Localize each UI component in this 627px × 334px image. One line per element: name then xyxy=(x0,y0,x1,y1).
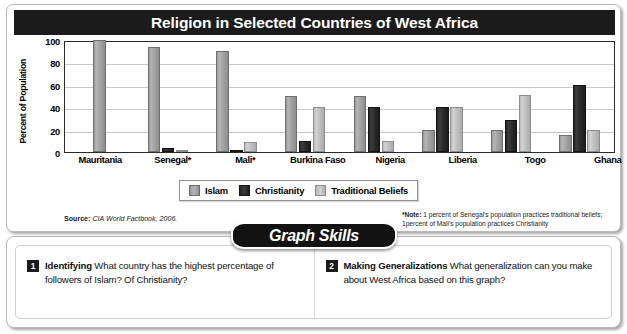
plot-container: Percent of Population 020406080100 xyxy=(22,41,617,165)
legend-label: Islam xyxy=(205,185,228,196)
page-title: Religion in Selected Countries of West A… xyxy=(151,14,478,32)
source-text: CIA World Factbook, 2006. xyxy=(92,215,177,223)
bar-group xyxy=(545,42,614,152)
questions-inner: 1Identifying What country has the highes… xyxy=(15,245,612,319)
bar xyxy=(450,107,463,152)
graph-skills-banner: Graph Skills xyxy=(231,222,397,249)
source-label: Source: xyxy=(64,215,90,223)
chart-legend: IslamChristianityTraditional Beliefs xyxy=(179,180,418,201)
question-number-badge: 2 xyxy=(326,260,338,272)
x-tick-label: Mauritania xyxy=(64,155,137,169)
chart-title-bar: Religion in Selected Countries of West A… xyxy=(14,10,615,35)
legend-label: Traditional Beliefs xyxy=(331,185,408,196)
x-tick-label: Mali* xyxy=(209,155,282,169)
question-number-badge: 1 xyxy=(27,260,39,272)
bar xyxy=(436,107,449,152)
bar xyxy=(216,51,229,152)
bar xyxy=(354,96,367,152)
bar-group xyxy=(134,42,203,152)
footnote: *Note: 1 percent of Senegal's population… xyxy=(402,211,618,229)
bar xyxy=(299,141,312,152)
legend-swatch-icon xyxy=(315,185,326,196)
legend-item: Islam xyxy=(189,185,228,196)
graph-skills-label: Graph Skills xyxy=(269,227,359,245)
bar xyxy=(491,130,504,152)
bar xyxy=(368,107,381,152)
y-axis-label: Percent of Population xyxy=(19,59,33,144)
legend-swatch-icon xyxy=(189,185,200,196)
bar xyxy=(230,150,243,152)
bar-group xyxy=(477,42,546,152)
bar xyxy=(422,130,435,152)
x-tick-label: Togo xyxy=(499,155,572,169)
legend-item: Christianity xyxy=(239,185,304,196)
x-tick-label: Senegal* xyxy=(137,155,210,169)
y-tick-label: 60 xyxy=(50,80,60,91)
bar xyxy=(244,142,257,152)
footnote-label: *Note: xyxy=(402,211,421,218)
bar xyxy=(285,96,298,152)
plot-area xyxy=(64,41,615,153)
y-tick-label: 100 xyxy=(45,36,60,47)
bar xyxy=(313,107,326,152)
question-text: Making Generalizations What generalizati… xyxy=(344,259,602,287)
bar xyxy=(505,120,518,152)
bar-group xyxy=(202,42,271,152)
questions-card: 1Identifying What country has the highes… xyxy=(6,236,621,328)
question-text: Identifying What country has the highest… xyxy=(45,259,304,287)
y-tick-label: 80 xyxy=(50,58,60,69)
footnote-text: 1 percent of Senegal's population practi… xyxy=(402,211,602,227)
y-axis-ticks: 020406080100 xyxy=(36,41,62,153)
source-note: Source: CIA World Factbook, 2006. xyxy=(64,215,177,223)
legend-item: Traditional Beliefs xyxy=(315,185,408,196)
bar-group xyxy=(65,42,134,152)
question-item: 2Making Generalizations What generalizat… xyxy=(314,246,612,318)
x-tick-label: Liberia xyxy=(427,155,500,169)
bars-layer xyxy=(65,42,614,152)
worksheet-page: Religion in Selected Countries of West A… xyxy=(0,0,627,334)
x-tick-label: Ghana xyxy=(572,155,627,169)
question-heading: Making Generalizations xyxy=(344,260,448,271)
bar xyxy=(162,148,175,152)
legend-swatch-icon xyxy=(239,185,250,196)
y-tick-label: 20 xyxy=(50,125,60,136)
question-item: 1Identifying What country has the highes… xyxy=(16,246,314,318)
bar xyxy=(93,40,106,152)
chart-card: Religion in Selected Countries of West A… xyxy=(6,4,621,232)
bar-group xyxy=(271,42,340,152)
x-axis-labels: MauritaniaSenegal*Mali*Burkina FasoNiger… xyxy=(64,155,627,169)
x-tick-label: Nigeria xyxy=(354,155,427,169)
bar-group xyxy=(340,42,409,152)
bar-group xyxy=(408,42,477,152)
bar xyxy=(148,47,161,152)
bar xyxy=(382,141,395,152)
x-tick-label: Burkina Faso xyxy=(282,155,355,169)
y-tick-label: 40 xyxy=(50,103,60,114)
bar xyxy=(559,135,572,152)
bar xyxy=(519,95,532,152)
bar xyxy=(176,150,189,152)
bar xyxy=(573,85,586,152)
question-heading: Identifying xyxy=(45,260,92,271)
bar xyxy=(587,130,600,152)
y-tick-label: 0 xyxy=(55,148,60,159)
legend-label: Christianity xyxy=(255,185,304,196)
